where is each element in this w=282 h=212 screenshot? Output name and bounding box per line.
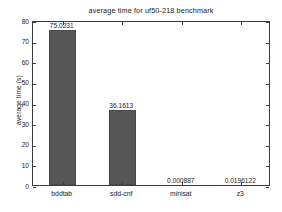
- y-axis-tick: [266, 166, 269, 167]
- y-axis-tick: [266, 43, 269, 44]
- y-axis-tick: [266, 84, 269, 85]
- y-axis-tick-label: 70: [0, 38, 29, 45]
- y-axis-tick-label: 10: [0, 162, 29, 169]
- y-axis-tick: [266, 63, 269, 64]
- y-axis-tick-label: 30: [0, 121, 29, 128]
- x-axis-tick: [63, 182, 64, 185]
- bar-value-label-bddtab: 75.0231: [32, 22, 92, 30]
- bar-sdd-cnf[interactable]: [109, 110, 136, 185]
- x-axis-tick-label-bddtab: bddtab: [32, 190, 92, 198]
- y-axis-tick-label: 40: [0, 100, 29, 107]
- y-axis-tick: [33, 43, 36, 44]
- bar-value-label-sdd-cnf: 36.1613: [92, 102, 152, 110]
- x-axis-tick: [122, 22, 123, 25]
- x-axis-tick: [122, 182, 123, 185]
- bar-value-label-minisat: 0.000887: [151, 177, 211, 185]
- x-axis-tick-label-sdd-cnf: sdd-cnf: [92, 190, 152, 198]
- y-axis-tick: [33, 125, 36, 126]
- y-axis-tick-label: 80: [0, 18, 29, 25]
- x-axis-tick-label-z3: z3: [211, 190, 271, 198]
- plot-area: [32, 21, 270, 186]
- y-axis-tick: [266, 22, 269, 23]
- y-axis-tick-label: 0: [0, 183, 29, 190]
- y-axis-tick: [266, 125, 269, 126]
- y-axis-tick: [266, 105, 269, 106]
- y-axis-tick-label: 50: [0, 79, 29, 86]
- y-axis-tick-label: 60: [0, 59, 29, 66]
- x-axis-tick: [182, 22, 183, 25]
- y-axis-tick: [33, 84, 36, 85]
- bar-bddtab[interactable]: [49, 30, 76, 185]
- y-axis-tick: [33, 105, 36, 106]
- y-axis-tick: [33, 187, 36, 188]
- y-axis-tick: [33, 146, 36, 147]
- y-axis-tick: [33, 63, 36, 64]
- figure-canvas: average time for uf50-218 benchmark aver…: [0, 0, 282, 212]
- y-axis-tick: [266, 187, 269, 188]
- plot-inner: [33, 22, 269, 185]
- y-axis-tick-label: 20: [0, 141, 29, 148]
- x-axis-tick: [241, 22, 242, 25]
- y-axis-tick: [266, 146, 269, 147]
- y-axis-tick: [33, 166, 36, 167]
- chart-title: average time for uf50-218 benchmark: [32, 6, 270, 15]
- x-axis-tick-label-minisat: minisat: [151, 190, 211, 198]
- bar-value-label-z3: 0.0196122: [211, 177, 271, 185]
